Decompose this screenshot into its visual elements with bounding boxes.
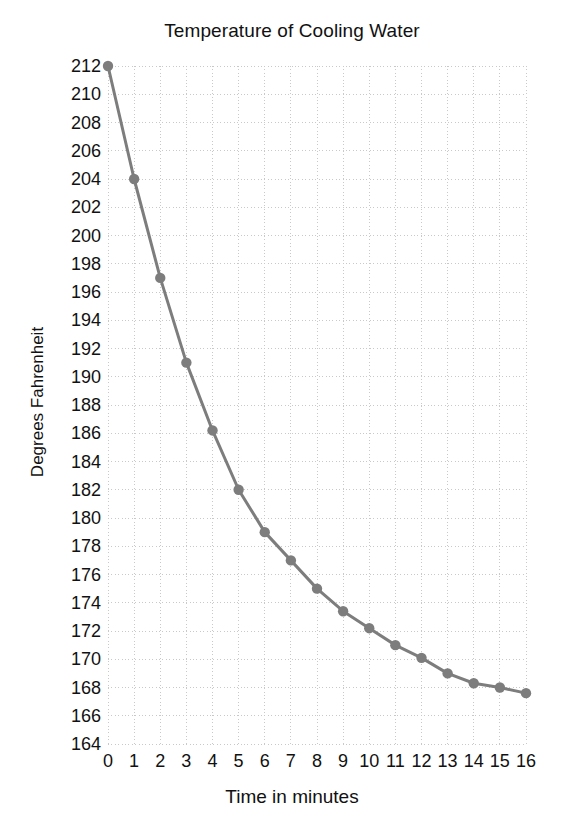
- x-tick-label: 4: [207, 752, 217, 770]
- x-tick-label: 8: [312, 752, 322, 770]
- y-tick-label: 180: [71, 509, 101, 527]
- y-tick-label: 164: [71, 735, 101, 753]
- data-series-line: [108, 66, 526, 744]
- x-tick-label: 1: [129, 752, 139, 770]
- y-tick-label: 196: [71, 283, 101, 301]
- x-tick-label: 11: [386, 752, 405, 770]
- x-tick-label: 12: [411, 752, 431, 770]
- x-tick-label: 14: [464, 752, 484, 770]
- y-tick-label: 194: [71, 311, 101, 329]
- y-tick-label: 198: [71, 255, 101, 273]
- x-tick-label: 3: [181, 752, 191, 770]
- x-tick-label: 5: [234, 752, 244, 770]
- y-axis-label: Degrees Fahrenheit: [28, 282, 48, 522]
- y-tick-label: 186: [71, 424, 101, 442]
- x-tick-label: 16: [516, 752, 536, 770]
- y-tick-label: 206: [71, 142, 101, 160]
- y-tick-label: 188: [71, 396, 101, 414]
- y-axis-ticks: 2122102082062042022001981961941921901881…: [55, 66, 101, 744]
- y-tick-label: 178: [71, 537, 101, 555]
- x-axis-ticks: 012345678910111213141516: [108, 752, 526, 778]
- y-tick-label: 208: [71, 114, 101, 132]
- plot-area: [108, 66, 526, 744]
- y-tick-label: 200: [71, 227, 101, 245]
- y-tick-label: 192: [71, 340, 101, 358]
- y-tick-label: 170: [71, 650, 101, 668]
- y-tick-label: 166: [71, 707, 101, 725]
- x-tick-label: 7: [286, 752, 296, 770]
- x-tick-label: 15: [490, 752, 510, 770]
- y-tick-label: 210: [71, 85, 101, 103]
- x-tick-label: 0: [103, 752, 113, 770]
- x-axis-label: Time in minutes: [0, 786, 584, 808]
- x-tick-label: 6: [260, 752, 270, 770]
- y-tick-label: 202: [71, 198, 101, 216]
- y-tick-label: 168: [71, 679, 101, 697]
- x-tick-label: 10: [359, 752, 379, 770]
- y-tick-label: 172: [71, 622, 101, 640]
- chart-title: Temperature of Cooling Water: [0, 20, 584, 42]
- y-tick-label: 212: [71, 57, 101, 75]
- y-tick-label: 182: [71, 481, 101, 499]
- x-tick-label: 9: [338, 752, 348, 770]
- chart-figure: Temperature of Cooling Water Degrees Fah…: [0, 0, 584, 829]
- y-tick-label: 174: [71, 594, 101, 612]
- x-tick-label: 13: [438, 752, 458, 770]
- y-tick-label: 190: [71, 368, 101, 386]
- x-tick-label: 2: [155, 752, 165, 770]
- y-tick-label: 176: [71, 566, 101, 584]
- y-tick-label: 184: [71, 453, 101, 471]
- y-tick-label: 204: [71, 170, 101, 188]
